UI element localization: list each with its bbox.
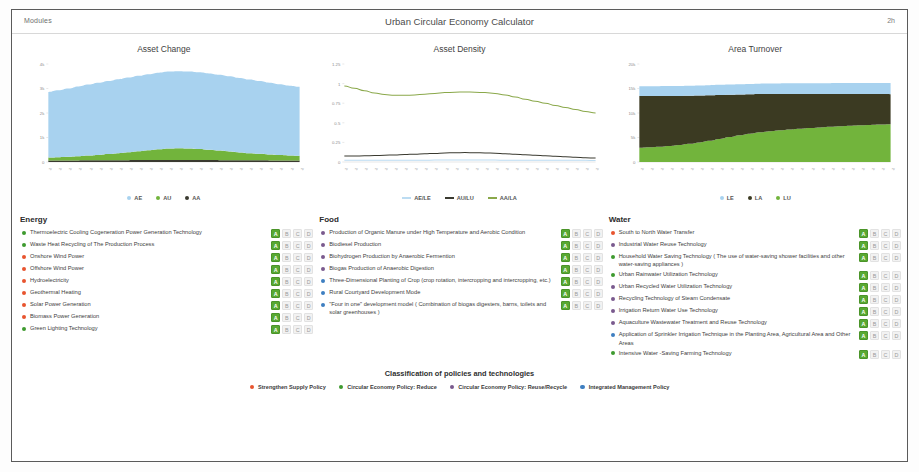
grade-button-b[interactable]: B bbox=[282, 289, 291, 298]
grade-button-c[interactable]: C bbox=[293, 253, 302, 262]
grade-button-c[interactable]: C bbox=[293, 229, 302, 238]
grade-button-d[interactable]: D bbox=[892, 319, 901, 328]
policy-legend-item[interactable]: Circular Economy Policy: Reduce bbox=[339, 384, 437, 390]
technology-item[interactable]: Rural Courtyard Development ModeABCD bbox=[317, 288, 602, 298]
technology-item[interactable]: Three-Dimensional Planting of Crop (crop… bbox=[317, 276, 602, 286]
grade-button-c[interactable]: C bbox=[881, 229, 890, 238]
grade-button-c[interactable]: C bbox=[583, 265, 592, 274]
grade-button-a[interactable]: A bbox=[561, 265, 570, 274]
grade-button-a[interactable]: A bbox=[271, 301, 280, 310]
grade-button-a[interactable]: A bbox=[271, 289, 280, 298]
legend-item[interactable]: AU bbox=[156, 195, 171, 201]
grade-button-a[interactable]: A bbox=[561, 253, 570, 262]
technology-item[interactable]: Household Water Saving Technology ( The … bbox=[607, 252, 901, 268]
grade-button-b[interactable]: B bbox=[572, 229, 581, 238]
technology-item[interactable]: HydroelectricityABCD bbox=[18, 276, 313, 286]
technology-item[interactable]: Irrigation Return Water Use TechnologyAB… bbox=[607, 306, 901, 316]
grade-button-b[interactable]: B bbox=[282, 277, 291, 286]
technology-item[interactable]: Recycling Technology of Steam Condensate… bbox=[607, 294, 901, 304]
grade-button-b[interactable]: B bbox=[870, 319, 879, 328]
grade-button-d[interactable]: D bbox=[594, 289, 603, 298]
technology-item[interactable]: Green Lighting TechnologyABCD bbox=[18, 324, 313, 334]
technology-item[interactable]: Biogas Production of Anaerobic Digestion… bbox=[317, 264, 602, 274]
grade-button-a[interactable]: A bbox=[859, 319, 868, 328]
grade-button-c[interactable]: C bbox=[293, 301, 302, 310]
grade-button-c[interactable]: C bbox=[293, 241, 302, 250]
technology-item[interactable]: Geothermal HeatingABCD bbox=[18, 288, 313, 298]
grade-button-d[interactable]: D bbox=[892, 241, 901, 250]
legend-item[interactable]: LU bbox=[776, 195, 790, 201]
grade-button-d[interactable]: D bbox=[304, 277, 313, 286]
grade-button-b[interactable]: B bbox=[282, 253, 291, 262]
policy-legend-item[interactable]: Integrated Management Policy bbox=[580, 384, 669, 390]
technology-item[interactable]: "Four in one" development model ( Combin… bbox=[317, 300, 602, 316]
technology-item[interactable]: Industrial Water Reuse TechnologyABCD bbox=[607, 240, 901, 250]
grade-button-a[interactable]: A bbox=[271, 325, 280, 334]
grade-button-b[interactable]: B bbox=[572, 265, 581, 274]
grade-button-b[interactable]: B bbox=[572, 301, 581, 310]
grade-button-d[interactable]: D bbox=[892, 295, 901, 304]
technology-item[interactable]: Offshore Wind PowerABCD bbox=[18, 264, 313, 274]
grade-button-a[interactable]: A bbox=[859, 350, 868, 359]
grade-button-d[interactable]: D bbox=[892, 331, 901, 340]
grade-button-d[interactable]: D bbox=[892, 253, 901, 262]
technology-item[interactable]: Urban Rainwater Utilization TechnologyAB… bbox=[607, 270, 901, 280]
legend-item[interactable]: LA bbox=[748, 195, 762, 201]
technology-item[interactable]: Thermoelectric Cooling Cogeneration Powe… bbox=[18, 228, 313, 238]
grade-button-b[interactable]: B bbox=[870, 271, 879, 280]
grade-button-c[interactable]: C bbox=[881, 295, 890, 304]
grade-button-c[interactable]: C bbox=[293, 325, 302, 334]
grade-button-d[interactable]: D bbox=[304, 241, 313, 250]
grade-button-c[interactable]: C bbox=[293, 277, 302, 286]
legend-item[interactable]: AA bbox=[185, 195, 200, 201]
grade-button-d[interactable]: D bbox=[892, 307, 901, 316]
technology-item[interactable]: Production of Organic Manure under High … bbox=[317, 228, 602, 238]
grade-button-c[interactable]: C bbox=[583, 289, 592, 298]
grade-button-a[interactable]: A bbox=[271, 229, 280, 238]
technology-item[interactable]: Biomass Power GenerationABCD bbox=[18, 312, 313, 322]
grade-button-b[interactable]: B bbox=[282, 265, 291, 274]
grade-button-c[interactable]: C bbox=[881, 241, 890, 250]
technology-item[interactable]: Urban Recycled Water Utilization Technol… bbox=[607, 282, 901, 292]
grade-button-c[interactable]: C bbox=[583, 229, 592, 238]
grade-button-c[interactable]: C bbox=[583, 277, 592, 286]
technology-item[interactable]: Biodiesel ProductionABCD bbox=[317, 240, 602, 250]
chart-plot-area[interactable]: 05k10k15k20k bbox=[613, 58, 897, 168]
grade-button-a[interactable]: A bbox=[271, 265, 280, 274]
grade-button-a[interactable]: A bbox=[859, 331, 868, 340]
legend-item[interactable]: AE/LE bbox=[402, 195, 430, 201]
grade-button-a[interactable]: A bbox=[271, 277, 280, 286]
grade-button-c[interactable]: C bbox=[881, 307, 890, 316]
technology-item[interactable]: Onshore Wind PowerABCD bbox=[18, 252, 313, 262]
grade-button-a[interactable]: A bbox=[859, 271, 868, 280]
legend-item[interactable]: LE bbox=[720, 195, 734, 201]
grade-button-d[interactable]: D bbox=[594, 241, 603, 250]
grade-button-c[interactable]: C bbox=[881, 350, 890, 359]
grade-button-d[interactable]: D bbox=[892, 283, 901, 292]
technology-item[interactable]: Waste Heat Recycling of The Production P… bbox=[18, 240, 313, 250]
grade-button-d[interactable]: D bbox=[304, 229, 313, 238]
grade-button-b[interactable]: B bbox=[870, 229, 879, 238]
grade-button-a[interactable]: A bbox=[859, 307, 868, 316]
grade-button-c[interactable]: C bbox=[583, 253, 592, 262]
grade-button-b[interactable]: B bbox=[572, 289, 581, 298]
technology-item[interactable]: Aquaculture Wastewater Treatment and Reu… bbox=[607, 318, 901, 328]
grade-button-b[interactable]: B bbox=[572, 277, 581, 286]
grade-button-a[interactable]: A bbox=[859, 229, 868, 238]
grade-button-d[interactable]: D bbox=[304, 265, 313, 274]
grade-button-d[interactable]: D bbox=[892, 350, 901, 359]
grade-button-b[interactable]: B bbox=[870, 253, 879, 262]
grade-button-d[interactable]: D bbox=[304, 313, 313, 322]
grade-button-c[interactable]: C bbox=[881, 271, 890, 280]
grade-button-a[interactable]: A bbox=[561, 289, 570, 298]
legend-item[interactable]: AE bbox=[127, 195, 142, 201]
grade-button-a[interactable]: A bbox=[859, 283, 868, 292]
grade-button-d[interactable]: D bbox=[594, 301, 603, 310]
grade-button-c[interactable]: C bbox=[293, 313, 302, 322]
grade-button-d[interactable]: D bbox=[594, 277, 603, 286]
grade-button-d[interactable]: D bbox=[892, 229, 901, 238]
grade-button-a[interactable]: A bbox=[859, 295, 868, 304]
grade-button-d[interactable]: D bbox=[594, 229, 603, 238]
policy-legend-item[interactable]: Strengthen Supply Policy bbox=[250, 384, 326, 390]
grade-button-b[interactable]: B bbox=[870, 283, 879, 292]
